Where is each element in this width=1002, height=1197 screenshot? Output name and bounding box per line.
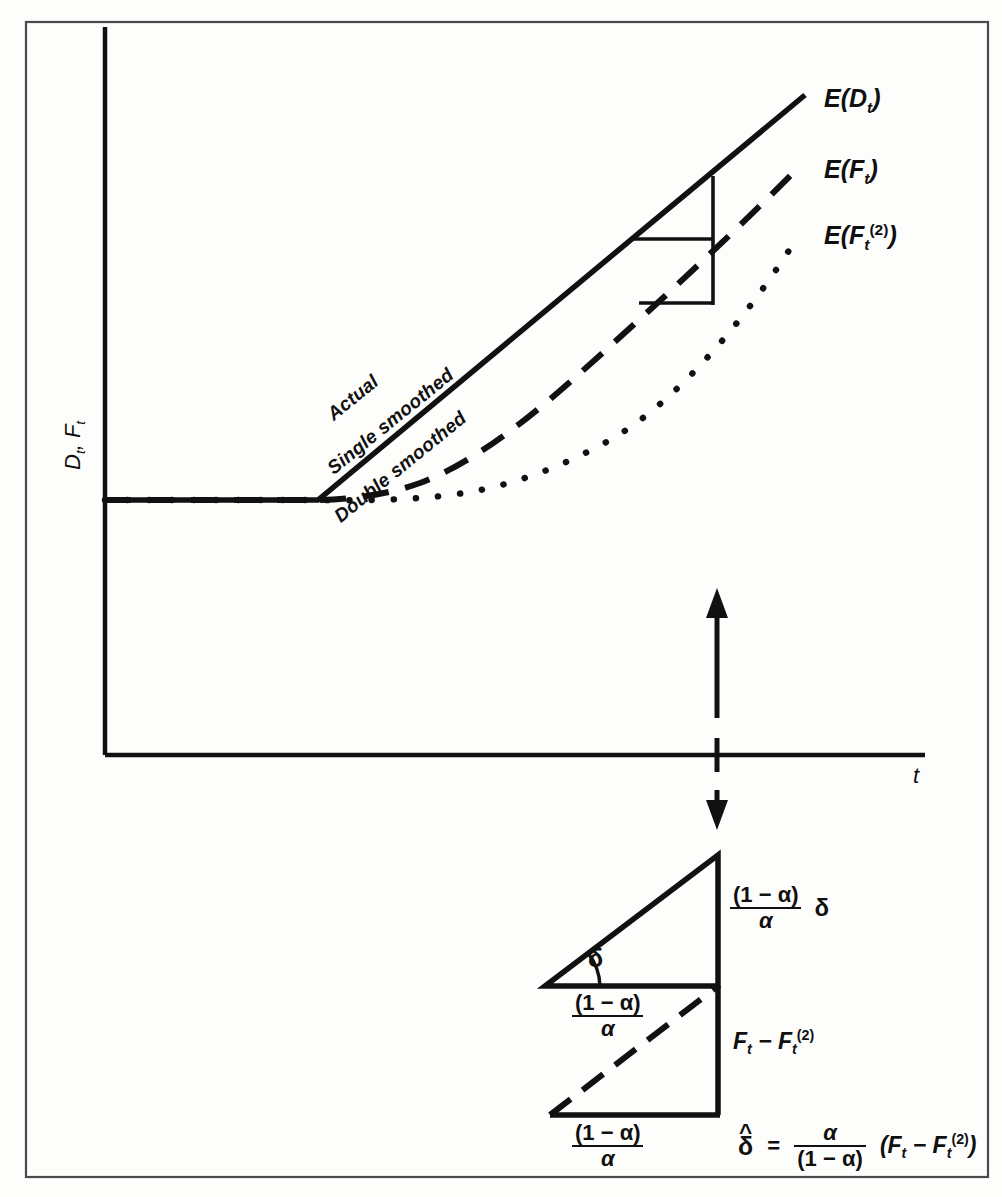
fraction-numerator: α bbox=[794, 1122, 865, 1147]
series-single-smoothed-line bbox=[105, 166, 800, 500]
fraction-numerator: (1 − α) bbox=[730, 884, 801, 909]
equation-rhs-F2: F bbox=[933, 1131, 947, 1157]
y-axis-label-D-sub: t bbox=[73, 450, 88, 454]
fraction-denominator: α bbox=[730, 909, 801, 932]
y-axis-label-F: F bbox=[60, 425, 85, 438]
triangle-angle-label-delta: δ bbox=[588, 946, 603, 971]
y-axis-label-sep: , bbox=[60, 438, 85, 450]
label-minus: − bbox=[752, 1028, 778, 1054]
end-label-double-sub: t bbox=[864, 236, 869, 253]
hat-accent-icon: ^ bbox=[738, 1122, 753, 1145]
y-axis-label-D: D bbox=[60, 454, 85, 470]
equation-lhs: ^ δ bbox=[738, 1134, 753, 1159]
fraction-denominator: (1 − α) bbox=[794, 1147, 865, 1170]
fraction-one-minus-alpha-over-alpha-bottom: (1 − α) α bbox=[572, 1122, 643, 1170]
end-label-single-suffix: ) bbox=[869, 155, 877, 183]
fraction-denominator: α bbox=[572, 1017, 643, 1040]
label-F2-sup: (2) bbox=[797, 1027, 814, 1043]
y-axis-label-F-sub: t bbox=[73, 421, 88, 425]
triangle-label-middle-base: (1 − α) α bbox=[572, 992, 643, 1040]
triangle-label-right-top: (1 − α) α δ bbox=[730, 884, 829, 932]
equation-fraction: α (1 − α) bbox=[794, 1122, 865, 1170]
series-actual-line bbox=[105, 95, 805, 500]
label-F1: F bbox=[733, 1028, 747, 1054]
label-F2-sub: t bbox=[792, 1041, 797, 1057]
x-axis-label: t bbox=[913, 765, 919, 787]
fraction-denominator: α bbox=[572, 1147, 643, 1170]
series-end-label-actual: E(Dt) bbox=[824, 86, 881, 116]
equation-rhs: (Ft − Ft(2)) bbox=[872, 1132, 977, 1161]
end-label-actual-prefix: E(D bbox=[824, 84, 867, 112]
triangle-label-right-top-delta: δ bbox=[808, 896, 830, 920]
equation-rhs-open: (F bbox=[880, 1131, 902, 1157]
end-label-double-sup: (2) bbox=[869, 221, 888, 238]
series-double-smoothed-line bbox=[105, 233, 800, 500]
label-F2: F bbox=[778, 1028, 792, 1054]
fraction-numerator: (1 − α) bbox=[572, 992, 643, 1017]
fraction-numerator: (1 − α) bbox=[572, 1122, 643, 1147]
annotation-double-arrow bbox=[706, 588, 728, 830]
triangle-label-bottom-base: (1 − α) α bbox=[572, 1122, 643, 1170]
triangle-label-right-bottom: Ft − Ft(2) bbox=[733, 1028, 814, 1057]
equation-delta-hat: ^ δ = α (1 − α) (Ft − Ft(2)) bbox=[738, 1122, 976, 1170]
upper-triangle bbox=[545, 855, 718, 986]
equation-rhs-sub2: t bbox=[947, 1145, 952, 1161]
equation-rhs-close: ) bbox=[969, 1131, 977, 1157]
end-label-single-prefix: E(F bbox=[824, 155, 864, 183]
series-end-label-single: E(Ft) bbox=[824, 157, 878, 187]
series-end-label-double: E(Ft(2)) bbox=[824, 222, 897, 253]
equation-rhs-minus: − bbox=[906, 1131, 932, 1157]
y-axis-label: Dt, Ft bbox=[62, 421, 88, 470]
equation-rhs-sup2: (2) bbox=[951, 1131, 968, 1147]
fraction-one-minus-alpha-over-alpha-top: (1 − α) α bbox=[730, 884, 801, 932]
fraction-one-minus-alpha-over-alpha-middle: (1 − α) α bbox=[572, 992, 643, 1040]
figure-border bbox=[26, 22, 988, 1177]
end-label-double-suffix: ) bbox=[888, 221, 896, 249]
equation-equals: = bbox=[759, 1135, 788, 1157]
figure-root: Dt, Ft t Actual Single smoothed Double s… bbox=[0, 0, 1002, 1197]
end-label-actual-suffix: ) bbox=[872, 84, 880, 112]
end-label-double-prefix: E(F bbox=[824, 221, 864, 249]
